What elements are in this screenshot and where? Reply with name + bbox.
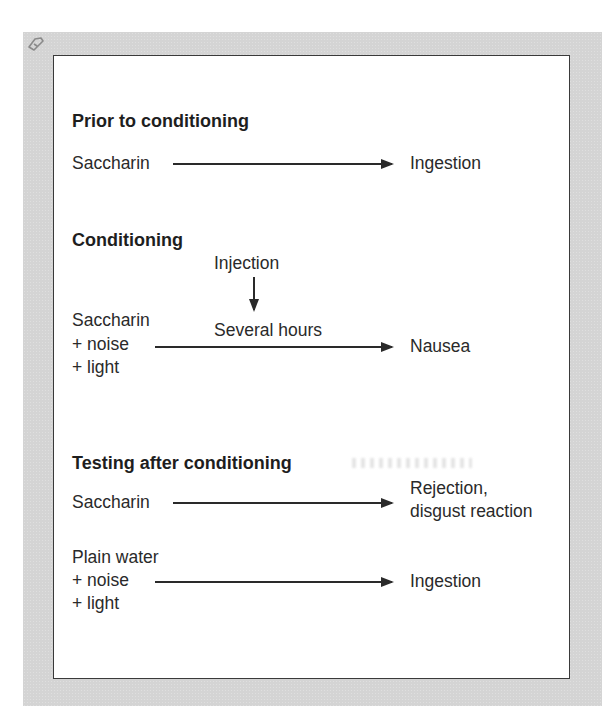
right-arrow-icon [155, 581, 392, 583]
right-arrow-icon [173, 502, 392, 504]
stimulus-label: Saccharin [72, 152, 150, 174]
right-arrow-icon [155, 346, 392, 348]
diagram-panel [53, 55, 570, 679]
delay-label: Several hours [214, 319, 322, 341]
stimulus-label: + noise [72, 569, 129, 591]
section-heading-conditioning: Conditioning [72, 229, 183, 251]
response-label: Ingestion [410, 570, 481, 592]
stimulus-label: Saccharin [72, 309, 150, 331]
down-arrow-icon [253, 277, 255, 310]
stimulus-label: + light [72, 356, 119, 378]
stimulus-label: + noise [72, 333, 129, 355]
stimulus-label: Plain water [72, 546, 159, 568]
bleed-through-artifact [352, 458, 472, 468]
response-label: disgust reaction [410, 500, 533, 522]
section-heading-testing: Testing after conditioning [72, 452, 292, 474]
right-arrow-icon [173, 163, 392, 165]
response-label: Nausea [410, 335, 470, 357]
pencil-bookmark-icon [27, 36, 45, 52]
stimulus-label: + light [72, 592, 119, 614]
treatment-label: Injection [214, 252, 279, 274]
stimulus-label: Saccharin [72, 491, 150, 513]
response-label: Ingestion [410, 152, 481, 174]
response-label: Rejection, [410, 477, 488, 499]
section-heading-prior: Prior to conditioning [72, 110, 249, 132]
